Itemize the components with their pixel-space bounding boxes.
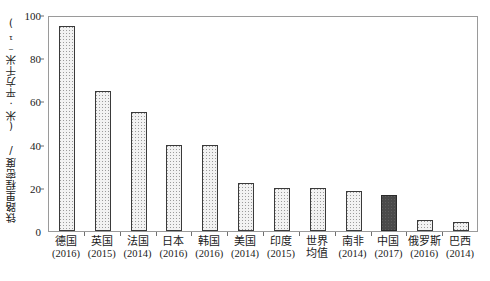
x-axis-label-name: 韩国 bbox=[195, 236, 223, 248]
x-axis-label-year: (2014) bbox=[124, 248, 152, 260]
bar bbox=[202, 145, 218, 231]
x-axis-label: 美国(2014) bbox=[231, 236, 259, 260]
y-tick-mark bbox=[40, 102, 44, 103]
x-axis-label-year: (2016) bbox=[195, 248, 223, 260]
y-tick-mark bbox=[40, 16, 44, 17]
x-axis-label-name2: 均值 bbox=[306, 248, 328, 260]
x-axis-label: 中国(2017) bbox=[374, 236, 402, 260]
x-axis-labels: 德国(2016)英国(2015)法国(2014)日本(2016)韩国(2016)… bbox=[48, 236, 478, 281]
bar bbox=[238, 183, 254, 231]
x-axis-label: 俄罗斯(2016) bbox=[408, 236, 441, 260]
x-axis-label: 印度(2015) bbox=[267, 236, 295, 260]
x-axis-label-year: (2014) bbox=[339, 248, 367, 260]
x-axis-label-name: 南非 bbox=[339, 236, 367, 248]
x-axis-label: 德国(2016) bbox=[52, 236, 80, 260]
x-axis-label-year: (2016) bbox=[159, 248, 187, 260]
bar bbox=[310, 188, 326, 231]
plot-area bbox=[48, 16, 478, 232]
x-axis-label: 南非(2014) bbox=[339, 236, 367, 260]
x-axis-label-year: (2015) bbox=[267, 248, 295, 260]
y-tick-mark bbox=[40, 188, 44, 189]
y-tick-label: 0 bbox=[36, 226, 42, 238]
bar-chart: 铁路里程密度/ (米·平方千米⁻¹) 020406080100 德国(2016)… bbox=[0, 0, 490, 281]
bar bbox=[131, 112, 147, 231]
bars-layer bbox=[49, 17, 477, 231]
bar bbox=[274, 188, 290, 231]
y-axis-ticks: 020406080100 bbox=[18, 0, 44, 232]
x-axis-label-name: 德国 bbox=[52, 236, 80, 248]
x-axis-label-name: 法国 bbox=[124, 236, 152, 248]
x-axis-label-year: (2014) bbox=[231, 248, 259, 260]
y-tick-label: 100 bbox=[25, 10, 42, 22]
bar bbox=[346, 191, 362, 231]
x-axis-label-name: 美国 bbox=[231, 236, 259, 248]
bar bbox=[417, 220, 433, 231]
bar bbox=[95, 91, 111, 231]
x-axis-label-year: (2016) bbox=[408, 248, 441, 260]
x-axis-label-name: 巴西 bbox=[446, 236, 474, 248]
x-axis-label-name: 英国 bbox=[88, 236, 116, 248]
bar bbox=[166, 145, 182, 231]
x-axis-label-year: (2014) bbox=[446, 248, 474, 260]
x-axis-label: 世界均值 bbox=[306, 236, 328, 261]
y-tick-mark bbox=[40, 59, 44, 60]
y-axis-title-label: 铁路里程密度/ (米·平方千米⁻¹) bbox=[6, 18, 17, 223]
x-axis-label: 英国(2015) bbox=[88, 236, 116, 260]
x-axis-label-year: (2017) bbox=[374, 248, 402, 260]
y-tick-mark bbox=[40, 145, 44, 146]
x-axis-label: 日本(2016) bbox=[159, 236, 187, 260]
x-axis-label-year: (2015) bbox=[88, 248, 116, 260]
x-axis-label: 韩国(2016) bbox=[195, 236, 223, 260]
bar bbox=[59, 26, 75, 231]
x-axis-label: 巴西(2014) bbox=[446, 236, 474, 260]
x-axis-label-year: (2016) bbox=[52, 248, 80, 260]
bar bbox=[453, 222, 469, 231]
x-axis-label-name: 俄罗斯 bbox=[408, 236, 441, 248]
bar bbox=[381, 195, 397, 231]
x-axis-label-name: 日本 bbox=[159, 236, 187, 248]
x-axis-label: 法国(2014) bbox=[124, 236, 152, 260]
x-axis-label-name: 印度 bbox=[267, 236, 295, 248]
x-axis-label-name: 中国 bbox=[374, 236, 402, 248]
